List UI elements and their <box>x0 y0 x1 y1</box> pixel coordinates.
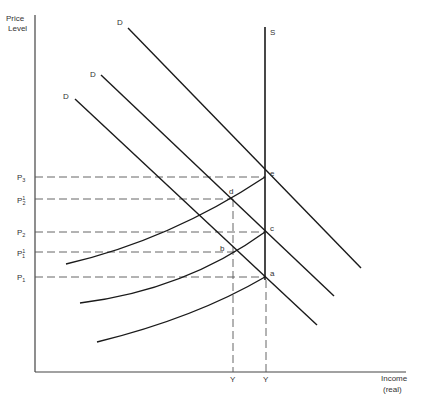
supply-label: S <box>270 28 275 37</box>
x-axis-label-line2: (real) <box>383 385 402 394</box>
price-label-p1: P1 <box>17 273 25 283</box>
point-label-c: c <box>270 224 274 233</box>
demand-label-d2: D <box>90 70 96 79</box>
aggregate-supply-demand-diagram: Price Level Income (real) S D D D e d c … <box>0 0 426 399</box>
income-label-y-full: Y <box>263 375 269 384</box>
point-label-b: b <box>220 244 225 253</box>
point-label-e: e <box>270 169 275 178</box>
price-label-p1-prime: P11 <box>17 248 25 259</box>
income-label-y-prime: Y <box>230 375 236 384</box>
demand-label-d1: D <box>63 92 69 101</box>
y-axis-label-line2: Level <box>8 24 27 33</box>
demand-curve-d1 <box>75 99 317 325</box>
price-label-p2: P2 <box>17 228 25 238</box>
price-label-p3: P3 <box>17 173 25 183</box>
price-label-p2-prime: P12 <box>17 195 25 206</box>
y-axis-label-line1: Price <box>6 14 25 23</box>
point-label-d: d <box>229 187 233 196</box>
point-label-a: a <box>270 269 275 278</box>
price-level-labels: P3 P12 P2 P11 P1 <box>17 173 25 283</box>
adjustment-curve-lower <box>97 277 265 342</box>
x-axis-label-line1: Income <box>381 374 408 383</box>
demand-label-d3: D <box>117 18 123 27</box>
demand-curve-d2 <box>101 75 334 296</box>
